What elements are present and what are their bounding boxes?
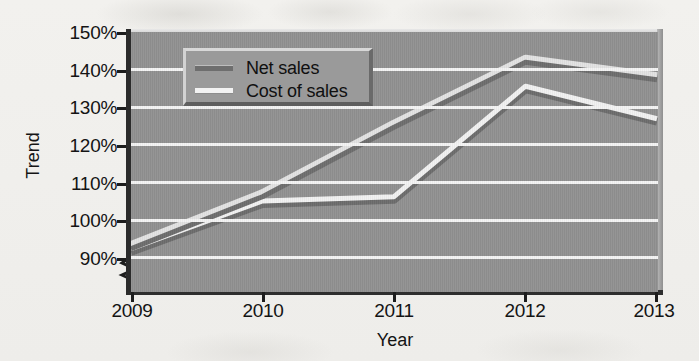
x-tick-label-2010: 2010 [218,300,308,322]
y-tick-label-110: 110% [51,173,117,195]
y-tick-label-140: 140% [51,60,117,82]
x-tick-label-2009: 2009 [87,300,177,322]
y-tick-label-100: 100% [51,210,117,232]
gridline-130 [131,106,658,109]
legend-label-cost-of-sales: Cost of sales [246,81,347,102]
gridline-100 [131,219,658,222]
y-tick-label-120: 120% [51,135,117,157]
gridline-110 [131,181,658,184]
line-chart: Trend 150% 140% 130% 120% 110% 100% 90% [0,0,699,361]
legend-swatch-cost-of-sales [195,88,233,94]
x-axis-title: Year [350,330,440,351]
gridline-120 [131,143,658,146]
legend-swatch-net-sales [195,65,233,71]
legend-item-cost-of-sales: Cost of sales [195,79,347,103]
cost-of-sales-line-shadow [131,89,657,252]
x-tick-label-2012: 2012 [480,300,570,322]
legend-item-net-sales: Net sales [195,56,319,80]
y-tick-label-130: 130% [51,97,117,119]
y-tick-label-150: 150% [51,22,117,44]
gridline-90 [131,256,658,259]
x-tick-label-2013: 2013 [609,300,699,322]
y-tick-label-90: 90% [51,248,117,270]
x-tick-label-2011: 2011 [349,300,439,322]
chart-legend: Net sales Cost of sales [183,48,373,106]
legend-label-net-sales: Net sales [246,58,319,79]
y-axis-title: Trend [23,111,44,201]
